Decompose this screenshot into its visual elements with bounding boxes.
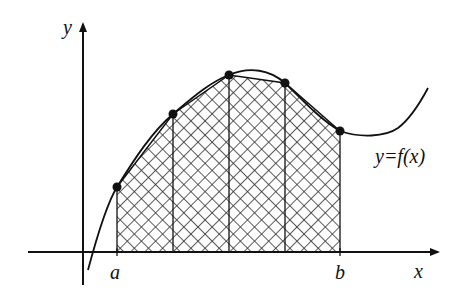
y-axis-label: y — [61, 16, 72, 39]
label-a: a — [110, 261, 120, 283]
trapezoid-diagram: y x a b y=f(x) — [0, 0, 462, 300]
label-b: b — [335, 261, 345, 283]
x-axis-label: x — [413, 260, 423, 282]
function-label: y=f(x) — [373, 145, 425, 168]
